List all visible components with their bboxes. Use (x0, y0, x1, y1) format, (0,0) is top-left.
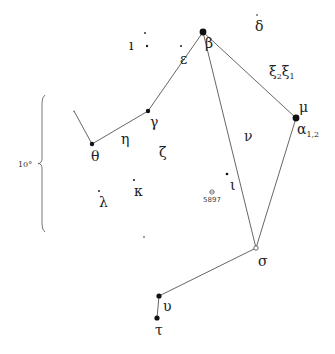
constellation-lines (74, 32, 296, 318)
star-dot (143, 236, 145, 238)
label-nu: ν (244, 128, 253, 144)
label-kappa: κ (134, 183, 143, 199)
stars (90, 14, 300, 320)
label-alpha12: α1,2 (297, 121, 319, 139)
scale-label: 10° (18, 160, 32, 169)
label-eta: η (121, 131, 129, 147)
label-theta: θ (91, 148, 99, 164)
star-upsilon (156, 293, 161, 298)
star-dot (146, 45, 148, 47)
star-theta (90, 142, 94, 146)
star-chart: 10° βα1,2μγεθηζνδικλσυτξ2ξ1ı5897 (0, 0, 335, 354)
constellation-line (74, 32, 203, 144)
brace-icon (38, 95, 45, 232)
label-sigma: σ (258, 253, 268, 269)
star-tau (154, 315, 159, 320)
star-sigma (254, 246, 258, 250)
star-iota (226, 173, 229, 176)
star-gamma (146, 109, 150, 113)
label-beta: β (205, 35, 213, 51)
label-upsilon: υ (163, 298, 172, 314)
star-delta (256, 14, 258, 16)
label-lambda: λ (99, 194, 108, 210)
label-gamma: γ (150, 114, 158, 130)
star-dot (73, 110, 74, 111)
label-iota: ι (230, 177, 236, 193)
label-xi2-xi1: ξ2ξ1 (269, 63, 295, 81)
cluster-label: 5897 (203, 196, 221, 204)
star-dot (180, 45, 182, 47)
star-labels: βα1,2μγεθηζνδικλσυτξ2ξ1ı5897 (91, 18, 319, 338)
constellation-line (157, 248, 256, 318)
label-faint: ı (129, 37, 134, 53)
label-mu: μ (299, 99, 308, 115)
star-lambda (98, 190, 100, 192)
label-zeta: ζ (159, 144, 167, 160)
star-dot (144, 32, 146, 34)
label-epsilon: ε (180, 51, 187, 67)
label-delta: δ (255, 18, 263, 34)
scale-brace: 10° (18, 95, 45, 232)
label-tau: τ (155, 322, 163, 338)
star-kappa (133, 179, 135, 181)
